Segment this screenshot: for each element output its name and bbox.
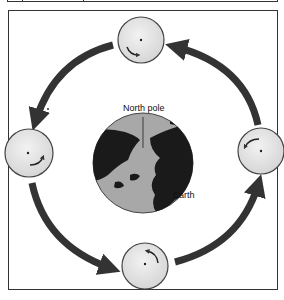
orbit-arrow-top-right [176,47,258,125]
moon-top [118,17,164,63]
moon-bottom [122,243,168,289]
moon-left [5,129,53,177]
north-pole-label: North pole [123,103,165,113]
orbit-arrow-bottom-left [32,183,110,268]
moon-right [238,128,284,174]
orbit-diagram [0,0,284,300]
earth-label: Earth [173,190,195,200]
dot-marker [47,108,49,110]
